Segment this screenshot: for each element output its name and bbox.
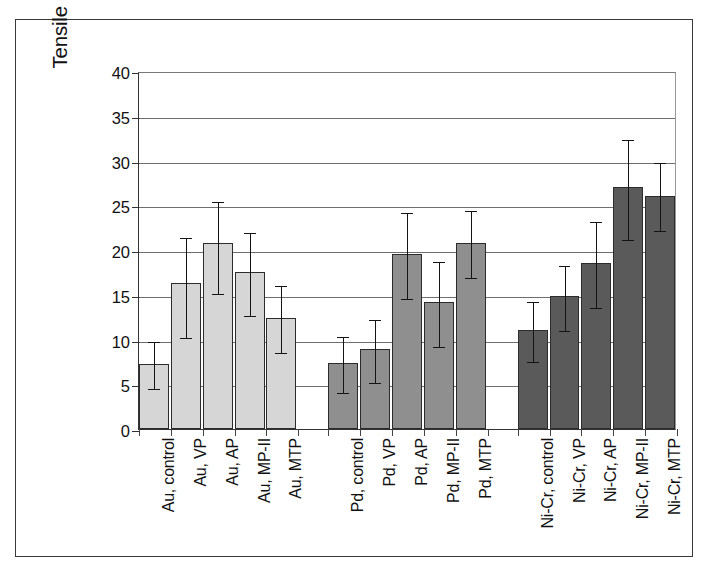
x-category-label: Ni-Cr, control — [539, 438, 557, 529]
error-bar — [186, 238, 187, 338]
x-category-label: Au, MTP — [287, 438, 305, 499]
y-tick-mark — [132, 207, 139, 208]
x-tick-mark — [581, 429, 582, 436]
y-axis-title: Tensile bond strength (MPa) — [40, 0, 80, 108]
y-tick-mark — [132, 342, 139, 343]
error-bar-cap-lower — [212, 294, 224, 295]
error-bar-cap-upper — [465, 211, 477, 212]
x-category-label: Pd, MTP — [477, 438, 495, 499]
error-bar-cap-lower — [337, 393, 349, 394]
x-category-label: Au, MP-II — [256, 438, 274, 503]
figure-frame: Tensile bond strength (MPa) 051015202530… — [15, 19, 693, 557]
error-bar-cap-upper — [275, 286, 287, 287]
error-bar-cap-lower — [433, 347, 445, 348]
x-category-label: Ni-Cr, AP — [602, 438, 620, 502]
error-bar — [281, 286, 282, 353]
y-tick-label: 5 — [121, 377, 130, 396]
error-bar-cap-lower — [401, 299, 413, 300]
x-tick-mark — [392, 429, 393, 436]
x-tick-mark — [424, 429, 425, 436]
error-bar-cap-lower — [275, 353, 287, 354]
x-category-label: Ni-Cr, MP-II — [634, 438, 652, 519]
y-tick-label: 35 — [112, 108, 130, 127]
error-bar-cap-lower — [590, 308, 602, 309]
y-tick-mark — [132, 431, 139, 432]
error-bar — [375, 320, 376, 383]
error-bar — [628, 140, 629, 240]
y-tick-label: 0 — [121, 422, 130, 441]
error-bar-cap-upper — [559, 266, 571, 267]
y-tick-label: 40 — [112, 64, 130, 83]
x-category-label: Pd, control — [349, 438, 367, 512]
error-bar — [343, 337, 344, 392]
error-bar-cap-upper — [654, 163, 666, 164]
x-tick-mark — [518, 429, 519, 436]
error-bar — [565, 266, 566, 330]
x-tick-mark — [203, 429, 204, 436]
error-bar-cap-upper — [622, 140, 634, 141]
error-bar-cap-lower — [148, 389, 160, 390]
error-bar-cap-upper — [401, 213, 413, 214]
y-tick-mark — [132, 73, 139, 74]
error-bar — [596, 222, 597, 308]
x-tick-mark — [139, 429, 140, 436]
x-category-label: Au, VP — [192, 438, 210, 487]
error-bar — [660, 163, 661, 232]
y-tick-label: 20 — [112, 243, 130, 262]
error-bar — [250, 233, 251, 315]
error-bar-cap-upper — [180, 238, 192, 239]
x-category-label: Ni-Cr, VP — [571, 438, 589, 503]
error-bar-cap-lower — [369, 383, 381, 384]
error-bar-cap-lower — [465, 278, 477, 279]
error-bar-cap-lower — [180, 338, 192, 339]
x-tick-mark — [613, 429, 614, 436]
x-tick-mark — [235, 429, 236, 436]
x-category-label: Ni-Cr, MTP — [666, 438, 684, 515]
gridline — [139, 207, 675, 208]
error-bar-cap-upper — [527, 302, 539, 303]
x-category-label: Pd, VP — [381, 438, 399, 487]
x-tick-mark — [266, 429, 267, 436]
error-bar — [439, 262, 440, 347]
error-bar-cap-upper — [590, 222, 602, 223]
gridline — [139, 118, 675, 119]
error-bar — [407, 213, 408, 299]
x-tick-mark — [488, 429, 489, 436]
x-category-label: Pd, MP-II — [445, 438, 463, 503]
y-tick-mark — [132, 252, 139, 253]
error-bar — [471, 211, 472, 278]
y-tick-label: 15 — [112, 287, 130, 306]
error-bar-cap-upper — [244, 233, 256, 234]
y-tick-mark — [132, 118, 139, 119]
x-tick-mark — [171, 429, 172, 436]
error-bar-cap-lower — [527, 362, 539, 363]
error-bar-cap-lower — [622, 240, 634, 241]
x-category-label: Au, control — [160, 438, 178, 512]
error-bar — [218, 202, 219, 294]
error-bar — [533, 302, 534, 362]
error-bar-cap-lower — [559, 331, 571, 332]
x-tick-mark — [456, 429, 457, 436]
error-bar-cap-lower — [654, 231, 666, 232]
error-bar-cap-upper — [433, 262, 445, 263]
plot-area: 0510152025303540 Au, controlAu, VPAu, AP… — [138, 72, 676, 430]
y-tick-mark — [132, 297, 139, 298]
x-tick-mark — [360, 429, 361, 436]
y-tick-label: 25 — [112, 198, 130, 217]
x-tick-mark — [550, 429, 551, 436]
x-tick-mark — [328, 429, 329, 436]
y-tick-mark — [132, 163, 139, 164]
error-bar-cap-upper — [212, 202, 224, 203]
error-bar — [154, 342, 155, 389]
y-tick-mark — [132, 386, 139, 387]
x-category-label: Au, AP — [224, 438, 242, 486]
x-tick-mark — [298, 429, 299, 436]
error-bar-cap-lower — [244, 316, 256, 317]
x-tick-mark — [645, 429, 646, 436]
y-tick-label: 10 — [112, 332, 130, 351]
x-tick-mark — [677, 429, 678, 436]
error-bar-cap-upper — [369, 320, 381, 321]
x-category-label: Pd, AP — [413, 438, 431, 486]
y-tick-label: 30 — [112, 153, 130, 172]
error-bar-cap-upper — [148, 342, 160, 343]
